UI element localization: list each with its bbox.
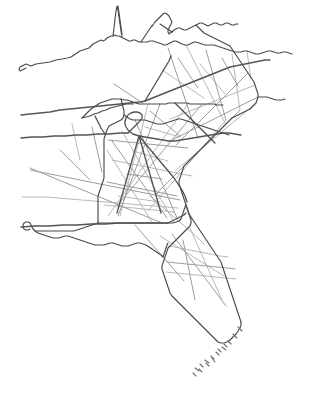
map-canvas	[0, 0, 310, 408]
southeast-us-map-drawing	[0, 0, 310, 408]
map-background	[0, 0, 310, 408]
